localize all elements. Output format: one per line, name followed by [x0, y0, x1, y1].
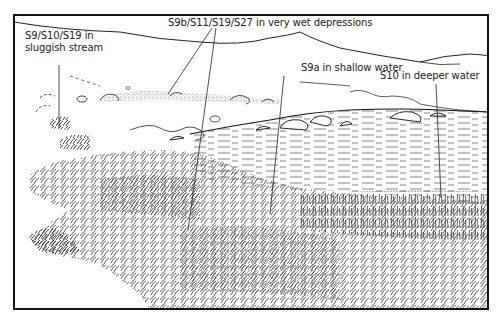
label-deeper-water: S10 in deeper water — [380, 70, 480, 82]
label-very-wet-depressions: S9b/S11/S19/S27 in very wet depressions — [168, 17, 372, 29]
vegetation-illustration: S9/S10/S19 in sluggish stream S9b/S11/S1… — [0, 0, 501, 322]
scene — [14, 22, 490, 310]
leader-depressions-a — [168, 28, 212, 94]
label-sluggish-stream: S9/S10/S19 in sluggish stream — [25, 30, 103, 54]
